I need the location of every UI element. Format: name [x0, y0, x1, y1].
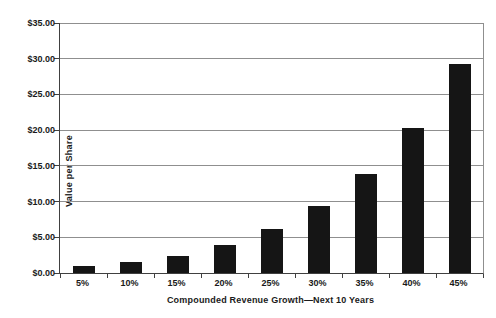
x-tick-label: 40% — [388, 278, 435, 288]
bar — [120, 262, 142, 273]
y-tick-label: $25.00 — [2, 89, 55, 99]
bar — [308, 206, 330, 274]
value-per-share-bar-chart: Value per Share $0.00$5.00$10.00$15.00$2… — [0, 0, 496, 318]
bar — [261, 229, 283, 273]
x-tick-label: 5% — [59, 278, 106, 288]
x-tick-label: 15% — [153, 278, 200, 288]
y-tick-label: $15.00 — [2, 161, 55, 171]
y-tick-label: $0.00 — [2, 268, 55, 278]
y-axis-title: Value per Share — [64, 101, 74, 241]
bar — [355, 174, 377, 273]
x-tick-label: 45% — [435, 278, 482, 288]
x-tick-label: 10% — [106, 278, 153, 288]
plot-area: Value per Share — [59, 23, 484, 274]
x-tick-label: 35% — [341, 278, 388, 288]
bar — [214, 245, 236, 273]
y-tick-label: $20.00 — [2, 125, 55, 135]
y-tick-label: $5.00 — [2, 232, 55, 242]
x-tick-label: 30% — [294, 278, 341, 288]
x-axis-title: Compounded Revenue Growth—Next 10 Years — [59, 295, 482, 305]
bar — [73, 266, 95, 273]
gridline — [60, 23, 483, 24]
x-tick-label: 25% — [247, 278, 294, 288]
x-tick-label: 20% — [200, 278, 247, 288]
bar — [449, 64, 471, 273]
bar — [402, 128, 424, 273]
bar — [167, 256, 189, 273]
y-tick-label: $35.00 — [2, 18, 55, 28]
x-axis-tick — [483, 274, 484, 278]
gridline — [60, 94, 483, 95]
y-tick-label: $30.00 — [2, 54, 55, 64]
gridline — [60, 58, 483, 59]
y-tick-label: $10.00 — [2, 197, 55, 207]
